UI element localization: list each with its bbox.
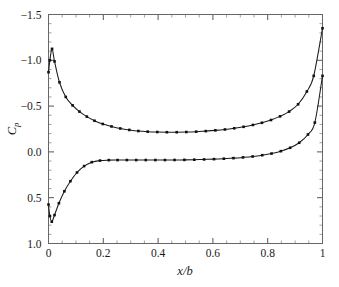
data-point-pressure-surface xyxy=(242,156,245,159)
data-point-pressure-surface xyxy=(223,157,226,160)
data-point-suction-surface xyxy=(288,110,291,113)
data-point-suction-surface xyxy=(306,90,309,93)
chart-figure: 00.20.40.60.81 −1.5−1.0−0.50.00.51.0 x/b… xyxy=(0,0,339,287)
data-point-suction-surface xyxy=(119,127,122,130)
data-point-suction-surface xyxy=(242,126,245,129)
data-point-suction-surface xyxy=(224,128,227,131)
data-point-pressure-surface xyxy=(58,202,61,205)
data-point-pressure-surface xyxy=(193,158,196,161)
data-point-pressure-surface xyxy=(321,75,324,78)
data-point-suction-surface xyxy=(312,75,315,78)
data-point-pressure-surface xyxy=(53,214,56,217)
data-point-suction-surface xyxy=(78,110,81,113)
cp-distribution-chart: 00.20.40.60.81 −1.5−1.0−0.50.00.51.0 x/b… xyxy=(0,0,339,287)
data-point-pressure-surface xyxy=(63,190,66,193)
data-point-pressure-surface xyxy=(47,203,50,206)
data-point-pressure-surface xyxy=(298,141,301,144)
data-point-suction-surface xyxy=(58,81,61,84)
data-point-suction-surface xyxy=(156,131,159,134)
data-point-pressure-surface xyxy=(289,146,292,149)
y-tick-label: −1.5 xyxy=(21,9,42,21)
data-point-pressure-surface xyxy=(116,159,119,162)
x-tick-label: 1 xyxy=(320,247,326,259)
data-point-pressure-surface xyxy=(307,133,310,136)
data-point-suction-surface xyxy=(101,123,104,126)
data-point-suction-surface xyxy=(128,129,131,132)
data-point-suction-surface xyxy=(110,125,113,128)
data-point-suction-surface xyxy=(233,127,236,130)
data-point-pressure-surface xyxy=(126,159,129,162)
data-point-suction-surface xyxy=(137,130,140,133)
y-tick-label: −1.0 xyxy=(21,54,42,66)
x-tick-label: 0.2 xyxy=(96,247,111,259)
data-point-suction-surface xyxy=(166,131,169,134)
data-point-pressure-surface xyxy=(261,154,264,157)
data-point-pressure-surface xyxy=(203,158,206,161)
data-point-suction-surface xyxy=(252,124,255,127)
data-point-suction-surface xyxy=(93,119,96,122)
data-point-suction-surface xyxy=(297,103,300,106)
y-tick-label: −0.5 xyxy=(21,100,42,112)
data-point-suction-surface xyxy=(185,131,188,134)
data-point-pressure-surface xyxy=(50,220,53,223)
data-point-pressure-surface xyxy=(76,171,79,174)
x-axis-label: x/b xyxy=(176,264,192,278)
data-point-suction-surface xyxy=(279,115,282,118)
x-tick-label: 0 xyxy=(46,247,52,259)
data-point-pressure-surface xyxy=(183,159,186,162)
x-tick-label: 0.8 xyxy=(261,247,276,259)
data-point-pressure-surface xyxy=(99,159,102,162)
y-tick-label: 0.5 xyxy=(27,192,42,204)
data-point-suction-surface xyxy=(261,121,264,124)
data-point-suction-surface xyxy=(49,59,52,62)
data-point-suction-surface xyxy=(321,27,324,30)
data-point-suction-surface xyxy=(195,130,198,133)
data-point-pressure-surface xyxy=(83,165,86,168)
data-point-pressure-surface xyxy=(232,157,235,160)
data-point-pressure-surface xyxy=(69,180,72,183)
data-point-suction-surface xyxy=(175,131,178,134)
data-point-suction-surface xyxy=(64,96,67,99)
data-point-pressure-surface xyxy=(164,159,167,162)
y-axis-label-subscript: p xyxy=(11,123,21,128)
x-tick-label: 0.6 xyxy=(206,247,221,259)
data-point-suction-surface xyxy=(47,71,50,74)
data-point-suction-surface xyxy=(86,115,89,118)
x-tick-label: 0.4 xyxy=(151,247,166,259)
data-point-suction-surface xyxy=(214,129,217,132)
data-point-pressure-surface xyxy=(270,152,273,155)
data-point-pressure-surface xyxy=(90,161,93,164)
data-point-suction-surface xyxy=(71,104,74,107)
data-point-pressure-surface xyxy=(251,155,254,158)
data-point-pressure-surface xyxy=(280,150,283,153)
data-point-suction-surface xyxy=(51,48,54,51)
y-tick-label: 0.0 xyxy=(27,146,42,158)
data-point-suction-surface xyxy=(270,119,273,122)
data-point-pressure-surface xyxy=(49,215,52,218)
data-point-suction-surface xyxy=(204,130,207,133)
data-point-pressure-surface xyxy=(314,121,317,124)
data-point-pressure-surface xyxy=(135,159,138,162)
data-point-pressure-surface xyxy=(213,158,216,161)
data-point-suction-surface xyxy=(146,130,149,133)
data-point-pressure-surface xyxy=(173,159,176,162)
data-point-pressure-surface xyxy=(144,159,147,162)
data-point-pressure-surface xyxy=(154,159,157,162)
data-point-pressure-surface xyxy=(107,159,110,162)
y-tick-label: 1.0 xyxy=(27,238,42,250)
data-point-suction-surface xyxy=(53,60,56,63)
